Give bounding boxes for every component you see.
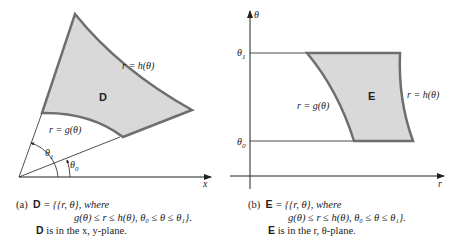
caption-a-line2: g(θ) ≤ r ≤ h(θ), θ₀ ≤ θ ≤ θ₁}. xyxy=(16,211,192,224)
angle-label-theta0: θ0 xyxy=(70,159,79,173)
figure-b: E r = h(θ) r = g(θ) θ r θ1 θ0 xyxy=(230,9,444,189)
tick-label-theta1: θ1 xyxy=(237,47,245,61)
region-e xyxy=(307,53,413,141)
caption-b: (b) E = {{r, θ}, where g(θ) ≤ r ≤ h(θ), … xyxy=(248,198,406,237)
curve-label-g: r = g(θ) xyxy=(49,124,82,136)
caption-b-line1: (b) E = {{r, θ}, where xyxy=(248,198,406,211)
curve-label-g-b: r = g(θ) xyxy=(297,100,330,112)
ray-theta1 xyxy=(19,113,42,177)
x-axis-label: x xyxy=(202,178,208,189)
caption-a: (a) D = {{r, θ}, where g(θ) ≤ r ≤ h(θ), … xyxy=(16,198,192,237)
region-d xyxy=(42,14,192,137)
r-axis-label: r xyxy=(438,178,442,189)
curve-label-h-b: r = h(θ) xyxy=(407,89,440,101)
figure-a: D r = h(θ) r = g(θ) θ1 θ0 x xyxy=(19,14,211,189)
caption-a-line1: (a) D = {{r, θ}, where xyxy=(16,198,192,211)
caption-a-set-name: D xyxy=(33,198,41,210)
region-label-e: E xyxy=(368,90,375,102)
theta-axis-label: θ xyxy=(254,9,259,20)
curve-label-h: r = h(θ) xyxy=(122,60,155,72)
caption-b-line3: E is in the r, θ-plane. xyxy=(248,224,406,237)
caption-b-set-name: E xyxy=(266,198,273,210)
caption-b-line2: g(θ) ≤ r ≤ h(θ), θ₀ ≤ θ ≤ θ₁}. xyxy=(248,211,406,224)
tick-label-theta0: θ0 xyxy=(237,136,246,150)
caption-a-line3: D is in the x, y-plane. xyxy=(16,224,192,237)
angle-label-theta1: θ1 xyxy=(45,147,53,161)
region-label-d: D xyxy=(99,91,107,103)
